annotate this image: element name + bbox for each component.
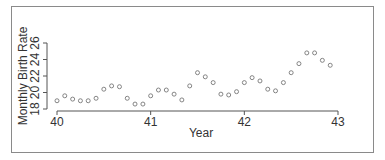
data-point [188, 84, 192, 88]
data-point [71, 97, 75, 101]
y-tick-label: 20 [28, 86, 42, 100]
x-tick-label: 41 [144, 115, 158, 129]
data-point [86, 99, 90, 103]
data-point [141, 102, 145, 106]
data-point [164, 88, 168, 92]
data-point [149, 94, 153, 98]
data-point [219, 92, 223, 96]
data-point [313, 51, 317, 55]
data-point [133, 102, 137, 106]
x-tick-label: 40 [50, 115, 64, 129]
y-tick-label: 24 [28, 53, 42, 67]
data-point [196, 71, 200, 75]
scatter-chart: 1820222426 40414243 Year Monthly Birth R… [0, 0, 385, 160]
data-point [250, 76, 254, 80]
data-point [180, 98, 184, 102]
data-point [258, 79, 262, 83]
data-point [172, 92, 176, 96]
data-point [94, 96, 98, 100]
data-point [320, 58, 324, 62]
x-tick-label: 43 [331, 115, 345, 129]
y-tick-label: 18 [28, 102, 42, 116]
data-point [117, 85, 121, 89]
data-point [235, 90, 239, 94]
data-point [78, 99, 82, 103]
data-points [55, 51, 332, 106]
x-axis-title: Year [189, 126, 213, 140]
data-point [328, 63, 332, 67]
data-point [242, 81, 246, 85]
data-point [281, 81, 285, 85]
data-point [274, 89, 278, 93]
data-point [211, 81, 215, 85]
data-point [55, 99, 59, 103]
data-point [125, 96, 129, 100]
data-point [297, 62, 301, 66]
data-point [156, 88, 160, 92]
y-axis: 1820222426 [28, 36, 47, 116]
data-point [289, 71, 293, 75]
y-tick-label: 22 [28, 69, 42, 83]
data-point [227, 93, 231, 97]
x-tick-label: 42 [238, 115, 252, 129]
data-point [63, 94, 67, 98]
y-axis-title: Monthly Birth Rate [16, 26, 30, 125]
y-tick-label: 26 [28, 36, 42, 50]
data-point [266, 87, 270, 91]
data-point [305, 51, 309, 55]
data-point [102, 87, 106, 91]
data-point [203, 75, 207, 79]
data-point [110, 84, 114, 88]
